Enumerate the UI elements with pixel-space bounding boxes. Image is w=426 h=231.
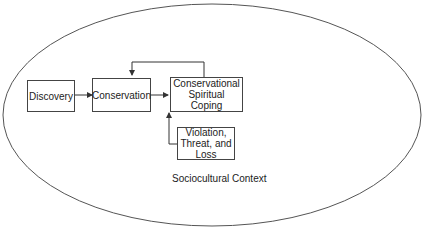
- context-ellipse: [3, 4, 421, 226]
- node-violation-threat-loss: Violation, Threat, and Loss: [177, 127, 235, 160]
- node-conservational-spiritual-coping: Conservational Spiritual Coping: [170, 77, 243, 112]
- context-label: Sociocultural Context: [172, 173, 267, 184]
- node-conservation: Conservation: [92, 78, 151, 112]
- arrow-coping-feedback: [132, 62, 204, 78]
- diagram-lines: [0, 0, 426, 231]
- node-discovery: Discovery: [27, 80, 75, 112]
- arrow-violation-coping: [169, 113, 177, 144]
